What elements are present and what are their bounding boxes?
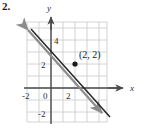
y-tick-label--2: -2 — [38, 109, 46, 119]
x-tick-label--2: -2 — [22, 91, 30, 101]
intersection-point-marker — [72, 61, 77, 66]
y-tick-label-2: 2 — [41, 60, 46, 70]
y-axis-label: y — [46, 3, 51, 13]
graph-svg: (2, 2) y x -2 0 2 4 2 -2 — [0, 0, 150, 129]
x-axis-label: x — [129, 83, 134, 93]
series-line-black — [31, 29, 110, 117]
x-tick-label-2: 2 — [66, 91, 71, 101]
intersection-point-label: (2, 2) — [79, 49, 101, 61]
y-tick-label-4: 4 — [54, 36, 59, 46]
x-tick-label-0: 0 — [43, 91, 48, 101]
coordinate-plane-figure: (2, 2) y x -2 0 2 4 2 -2 — [0, 0, 150, 129]
